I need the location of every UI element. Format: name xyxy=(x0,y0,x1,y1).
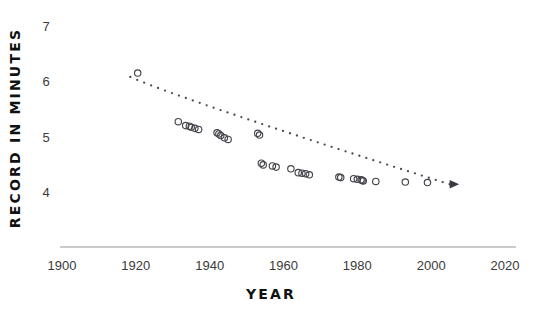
y-tick-label: 6 xyxy=(42,74,49,89)
trend-dot xyxy=(164,89,166,91)
data-points-group xyxy=(134,70,430,186)
data-point xyxy=(273,164,279,170)
trend-arrowhead-icon xyxy=(450,180,460,189)
trend-dot xyxy=(289,132,291,134)
x-tick-label: 1960 xyxy=(269,258,298,273)
trend-line-dotted xyxy=(129,76,459,189)
data-point xyxy=(260,162,266,168)
trend-dot xyxy=(212,107,214,109)
trend-dot xyxy=(358,155,360,157)
x-tick-label: 2020 xyxy=(491,258,520,273)
x-axis-title: YEAR xyxy=(245,286,296,302)
trend-dot xyxy=(351,152,353,154)
trend-dot xyxy=(317,141,319,143)
trend-dot xyxy=(414,172,416,174)
trend-dot xyxy=(407,170,409,172)
trend-dot xyxy=(365,157,367,159)
trend-dot xyxy=(379,161,381,163)
trend-dot xyxy=(421,174,423,176)
trend-dot xyxy=(254,121,256,123)
data-point xyxy=(254,130,260,136)
trend-dot xyxy=(247,118,249,120)
y-tick-label: 7 xyxy=(42,19,49,34)
trend-dot xyxy=(372,159,374,161)
trend-dot xyxy=(192,99,194,101)
y-axis-title: RECORD IN MINUTES xyxy=(7,28,23,228)
data-point xyxy=(258,160,264,166)
trend-dot xyxy=(337,148,339,150)
trend-dot xyxy=(143,82,145,84)
trend-dot xyxy=(157,87,159,89)
record-progression-scatter-chart: 4567 1900192019401960198020002020 YEAR R… xyxy=(0,0,542,311)
x-tick-label: 1900 xyxy=(48,258,77,273)
trend-dot xyxy=(150,84,152,86)
trend-dot xyxy=(393,166,395,168)
x-tick-label: 2000 xyxy=(417,258,446,273)
trend-dot xyxy=(233,114,235,116)
data-point xyxy=(402,179,408,185)
x-tick-label: 1980 xyxy=(343,258,372,273)
trend-dot xyxy=(435,179,437,181)
trend-dot xyxy=(428,177,430,179)
chart-container: 4567 1900192019401960198020002020 YEAR R… xyxy=(0,0,542,311)
trend-dot xyxy=(386,163,388,165)
data-point xyxy=(134,70,140,76)
trend-dot xyxy=(296,134,298,136)
data-point xyxy=(175,119,181,125)
y-tick-label: 4 xyxy=(42,185,49,200)
trend-dot xyxy=(129,76,131,78)
trend-dot xyxy=(185,97,187,99)
trend-dot xyxy=(240,116,242,118)
trend-dot xyxy=(324,143,326,145)
trend-dot xyxy=(219,109,221,111)
trend-dot xyxy=(199,102,201,104)
trend-dot xyxy=(226,111,228,113)
trend-dot xyxy=(136,79,138,81)
trend-dot xyxy=(303,137,305,139)
y-axis-tick-labels: 4567 xyxy=(42,19,49,200)
x-tick-label: 1940 xyxy=(195,258,224,273)
data-point xyxy=(288,166,294,172)
y-tick-label: 5 xyxy=(42,130,49,145)
trend-dot xyxy=(268,125,270,127)
trend-dot xyxy=(344,150,346,152)
trend-dot xyxy=(206,104,208,106)
trend-dot xyxy=(171,92,173,94)
data-point xyxy=(256,132,262,138)
data-point xyxy=(373,178,379,184)
data-point xyxy=(306,172,312,178)
data-point xyxy=(424,179,430,185)
trend-dot xyxy=(282,130,284,132)
data-point xyxy=(195,126,201,132)
trend-dot xyxy=(330,146,332,148)
x-axis-tick-labels: 1900192019401960198020002020 xyxy=(48,258,520,273)
x-tick-label: 1920 xyxy=(121,258,150,273)
trend-dot xyxy=(310,139,312,141)
trend-dot xyxy=(400,168,402,170)
trend-dot xyxy=(261,123,263,125)
trend-dot xyxy=(178,94,180,96)
trend-dot xyxy=(442,181,444,183)
trend-dot xyxy=(275,128,277,130)
